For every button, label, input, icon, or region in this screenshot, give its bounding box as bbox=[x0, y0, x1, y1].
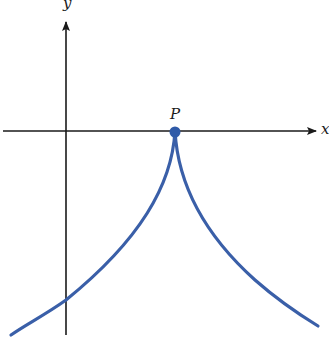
curve-right-branch bbox=[175, 131, 318, 326]
curve-left-branch bbox=[11, 131, 175, 335]
y-axis-label: y bbox=[63, 0, 71, 11]
point-p-marker bbox=[170, 127, 181, 138]
x-axis-label: x bbox=[321, 122, 329, 137]
point-p-label: P bbox=[170, 107, 180, 122]
